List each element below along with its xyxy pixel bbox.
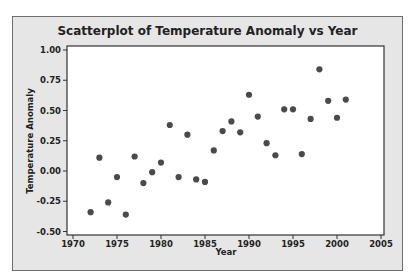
y-tick-label: 0.25 [40,136,61,146]
data-point [167,122,173,128]
y-tick-label: -0.25 [37,196,62,206]
data-point [299,151,305,157]
data-point [290,106,296,112]
data-point [246,92,252,98]
data-point [158,159,164,165]
x-tick-label: 2000 [325,239,349,249]
data-point [88,209,94,215]
x-tick-label: 1985 [193,239,217,249]
data-point [228,118,234,124]
y-axis: 1.000.750.500.250.00-0.25-0.50 [37,45,68,237]
data-point [211,147,217,153]
data-point [105,199,111,205]
data-point [193,176,199,182]
x-tick-label: 1995 [281,239,305,249]
x-tick-label: 1970 [61,239,85,249]
data-point [202,179,208,185]
plot-area [67,46,384,235]
data-point [334,115,340,121]
y-tick-label: -0.50 [37,227,62,237]
data-point [281,106,287,112]
x-tick-label: 1975 [105,239,129,249]
data-point [184,132,190,138]
data-point [149,169,155,175]
data-point [96,155,102,161]
data-point [264,140,270,146]
data-point [316,66,322,72]
scatterplot: 1.000.750.500.250.00-0.25-0.50 197019751… [0,0,415,278]
x-tick-label: 1990 [237,239,261,249]
data-point [123,211,129,217]
data-point [343,97,349,103]
x-tick-label: 1980 [149,239,173,249]
x-axis-label: Year [214,247,237,257]
data-point [114,174,120,180]
data-point [132,153,138,159]
data-point [325,98,331,104]
y-tick-label: 1.00 [40,45,61,55]
data-point [176,174,182,180]
y-tick-label: 0.75 [40,75,61,85]
data-point [308,116,314,122]
y-tick-label: 0.00 [40,166,61,176]
data-point [237,129,243,135]
data-point [272,152,278,158]
y-axis-label: Temperature Anomaly [25,88,35,194]
data-point [255,113,261,119]
data-point [220,128,226,134]
x-tick-label: 2005 [369,239,393,249]
data-point [140,180,146,186]
y-tick-label: 0.50 [40,106,61,116]
